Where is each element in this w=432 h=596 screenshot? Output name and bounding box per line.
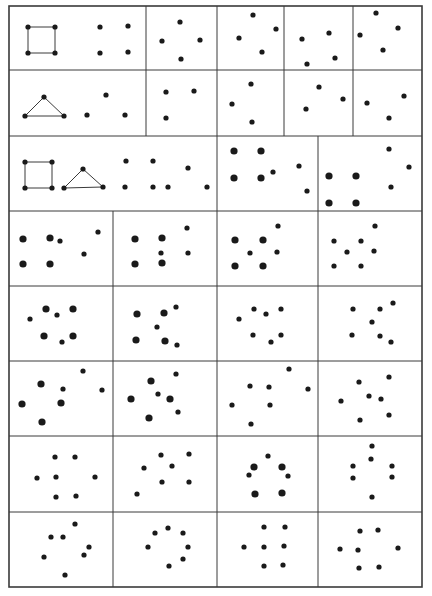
large-dot bbox=[325, 199, 332, 206]
small-dot bbox=[278, 332, 283, 337]
small-dot bbox=[248, 421, 253, 426]
small-dot bbox=[84, 112, 89, 117]
large-dot bbox=[231, 262, 238, 269]
large-dot bbox=[37, 380, 44, 387]
large-dot bbox=[57, 399, 64, 406]
small-dot bbox=[229, 101, 234, 106]
small-dot bbox=[326, 30, 331, 35]
small-dot bbox=[389, 463, 394, 468]
small-dot bbox=[81, 552, 86, 557]
small-dot bbox=[369, 319, 374, 324]
small-dot bbox=[280, 562, 285, 567]
large-dot bbox=[160, 309, 167, 316]
small-dot bbox=[185, 544, 190, 549]
small-dot bbox=[204, 184, 209, 189]
small-dot bbox=[81, 251, 86, 256]
small-dot bbox=[103, 92, 108, 97]
small-dot bbox=[229, 402, 234, 407]
large-dot bbox=[127, 395, 134, 402]
small-dot bbox=[386, 115, 391, 120]
small-dot bbox=[366, 393, 371, 398]
small-dot bbox=[304, 188, 309, 193]
small-dot bbox=[60, 386, 65, 391]
large-dot bbox=[19, 260, 26, 267]
large-dot bbox=[257, 147, 264, 154]
small-dot bbox=[62, 572, 67, 577]
large-dot bbox=[158, 259, 165, 266]
large-dot bbox=[38, 418, 45, 425]
small-dot bbox=[251, 306, 256, 311]
small-dot bbox=[22, 185, 27, 190]
small-dot bbox=[268, 339, 273, 344]
small-dot bbox=[285, 473, 290, 478]
large-dot bbox=[325, 172, 332, 179]
small-dot bbox=[163, 89, 168, 94]
small-dot bbox=[34, 475, 39, 480]
large-dot bbox=[145, 414, 152, 421]
large-dot bbox=[230, 174, 237, 181]
small-dot bbox=[165, 184, 170, 189]
background bbox=[0, 0, 432, 596]
small-dot bbox=[380, 47, 385, 52]
small-dot bbox=[373, 10, 378, 15]
small-dot bbox=[100, 184, 105, 189]
large-dot bbox=[251, 490, 258, 497]
small-dot bbox=[52, 24, 57, 29]
small-dot bbox=[25, 50, 30, 55]
small-dot bbox=[340, 96, 345, 101]
small-dot bbox=[369, 443, 374, 448]
large-dot bbox=[18, 400, 25, 407]
small-dot bbox=[357, 32, 362, 37]
large-dot bbox=[46, 234, 53, 241]
small-dot bbox=[350, 463, 355, 468]
small-dot bbox=[185, 165, 190, 170]
small-dot bbox=[22, 113, 27, 118]
small-dot bbox=[350, 306, 355, 311]
small-dot bbox=[296, 163, 301, 168]
small-dot bbox=[60, 534, 65, 539]
small-dot bbox=[378, 396, 383, 401]
small-dot bbox=[184, 225, 189, 230]
small-dot bbox=[267, 402, 272, 407]
small-dot bbox=[99, 387, 104, 392]
small-dot bbox=[375, 527, 380, 532]
small-dot bbox=[72, 521, 77, 526]
small-dot bbox=[299, 36, 304, 41]
small-dot bbox=[266, 384, 271, 389]
small-dot bbox=[246, 472, 251, 477]
small-dot bbox=[54, 312, 59, 317]
small-dot bbox=[177, 19, 182, 24]
small-dot bbox=[59, 339, 64, 344]
small-dot bbox=[61, 185, 66, 190]
small-dot bbox=[236, 35, 241, 40]
small-dot bbox=[165, 525, 170, 530]
small-dot bbox=[49, 159, 54, 164]
small-dot bbox=[122, 184, 127, 189]
small-dot bbox=[263, 311, 268, 316]
small-dot bbox=[174, 342, 179, 347]
large-dot bbox=[158, 234, 165, 241]
large-dot bbox=[352, 172, 359, 179]
small-dot bbox=[247, 383, 252, 388]
small-dot bbox=[371, 248, 376, 253]
small-dot bbox=[386, 374, 391, 379]
small-dot bbox=[141, 465, 146, 470]
small-dot bbox=[53, 494, 58, 499]
small-dot bbox=[73, 493, 78, 498]
small-dot bbox=[178, 56, 183, 61]
small-dot bbox=[41, 94, 46, 99]
small-dot bbox=[261, 563, 266, 568]
small-dot bbox=[22, 159, 27, 164]
small-dot bbox=[357, 528, 362, 533]
small-dot bbox=[191, 88, 196, 93]
small-dot bbox=[49, 185, 54, 190]
small-dot bbox=[248, 81, 253, 86]
large-dot bbox=[132, 336, 139, 343]
small-dot bbox=[305, 386, 310, 391]
small-dot bbox=[152, 530, 157, 535]
small-dot bbox=[122, 112, 127, 117]
small-dot bbox=[241, 544, 246, 549]
small-dot bbox=[72, 454, 77, 459]
small-dot bbox=[356, 565, 361, 570]
small-dot bbox=[97, 24, 102, 29]
